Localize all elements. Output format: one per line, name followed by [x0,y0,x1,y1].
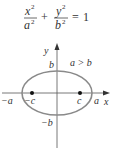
term2-numerator: y [55,4,62,18]
label-neg-a: −a [1,95,13,106]
label-neg-b: −b [41,117,53,128]
plus-sign: + [41,10,48,24]
y-axis-label: y [43,45,49,56]
term1-denominator: a [24,18,30,32]
equation-rhs: 1 [83,10,89,24]
condition-label: a > b [70,57,92,68]
x-axis-arrow-icon [103,91,110,96]
label-neg-c: −c [24,95,36,106]
label-a: a [94,95,99,106]
term1-denominator-exponent: 2 [31,18,35,26]
y-axis-arrow-icon [55,43,60,50]
ellipse-diagram: x 2 a 2 + y 2 b 2 = 1 y x b a > b −b −a … [0,0,114,153]
label-b: b [49,59,54,70]
label-c: c [77,95,82,106]
term1-numerator: x [24,4,31,18]
term1-numerator-exponent: 2 [31,3,35,11]
x-axis-label: x [103,96,109,107]
term2-numerator-exponent: 2 [62,3,66,11]
term2-denominator: b [55,18,61,32]
equals-sign: = [72,10,79,24]
term2-denominator-exponent: 2 [62,18,66,26]
ellipse-equation: x 2 a 2 + y 2 b 2 = 1 [24,3,89,32]
